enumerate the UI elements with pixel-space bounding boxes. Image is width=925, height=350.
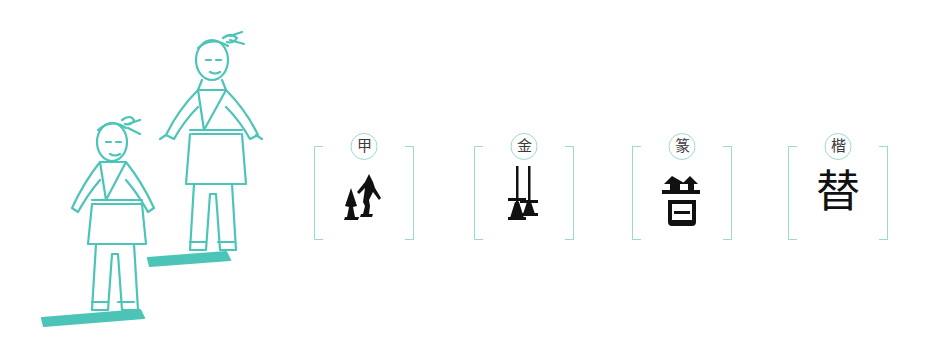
- panel-seal: 篆: [632, 128, 732, 246]
- short-boy-figure: [42, 117, 154, 326]
- right-bracket: [723, 146, 732, 240]
- left-bracket: [474, 146, 483, 240]
- seal-glyph-icon: [660, 174, 704, 226]
- panel-regular: 楷 替: [788, 128, 888, 246]
- tall-boy-figure: [148, 32, 262, 266]
- two-boys-illustration: [30, 20, 280, 340]
- panel-oracle-bone: 甲: [314, 128, 414, 246]
- script-badge-seal: 篆: [669, 133, 696, 160]
- script-badge-oracle: 甲: [351, 133, 378, 160]
- panel-bronze: 金: [474, 128, 574, 246]
- bronze-glyph-icon: [504, 164, 544, 226]
- left-bracket: [632, 146, 641, 240]
- right-bracket: [565, 146, 574, 240]
- left-bracket: [314, 146, 323, 240]
- regular-character: 替: [788, 170, 888, 214]
- oracle-glyph-icon: [339, 170, 389, 222]
- script-badge-bronze: 金: [511, 133, 538, 160]
- right-bracket: [405, 146, 414, 240]
- script-badge-regular: 楷: [825, 133, 852, 160]
